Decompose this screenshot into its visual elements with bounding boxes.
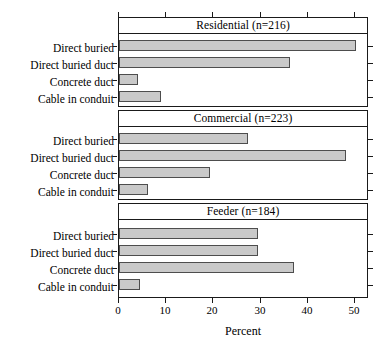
xticklabel-10: 10 [150, 305, 180, 316]
x-tick-bottom [354, 298, 355, 303]
y-tick [113, 97, 117, 98]
x-axis-title: Percent [118, 325, 368, 337]
right-tick [368, 234, 373, 235]
x-tick-bottom [260, 298, 261, 303]
panel-plot-feeder [118, 220, 368, 298]
right-tick [368, 97, 373, 98]
right-tick [368, 173, 373, 174]
x-tick-top [118, 12, 119, 17]
bar-feeder-direct-buried-duct [119, 245, 258, 256]
xticklabel-50: 50 [339, 305, 369, 316]
right-tick [368, 285, 373, 286]
panel-plot-residential [118, 34, 368, 107]
right-tick [368, 251, 373, 252]
bar-feeder-direct-buried [119, 228, 258, 239]
y-tick [113, 234, 117, 235]
x-tick-bottom [212, 298, 213, 303]
x-tick-bottom [165, 298, 166, 303]
panel-strip-label-residential: Residential (n=216) [196, 20, 290, 32]
x-tick-top [165, 12, 166, 17]
x-tick-top [260, 12, 261, 17]
bar-residential-cable-in-conduit [119, 91, 161, 102]
right-tick [368, 139, 373, 140]
ylabel-feeder-concrete-duct: Concrete duct [6, 265, 114, 277]
xticklabel-20: 20 [197, 305, 227, 316]
y-tick [113, 173, 117, 174]
x-tick-top [212, 12, 213, 17]
bar-residential-direct-buried-duct [119, 57, 290, 68]
ylabel-commercial-direct-buried: Direct buried [6, 136, 114, 148]
y-tick [113, 268, 117, 269]
right-tick [368, 268, 373, 269]
y-tick [113, 139, 117, 140]
y-tick [113, 63, 117, 64]
panel-strip-commercial: Commercial (n=223) [118, 110, 368, 127]
panel-strip-label-feeder: Feeder (n=184) [207, 206, 280, 218]
xticklabel-30: 30 [245, 305, 275, 316]
panel-strip-feeder: Feeder (n=184) [118, 203, 368, 220]
y-tick [113, 285, 117, 286]
bar-commercial-concrete-duct [119, 167, 210, 178]
x-tick-top [354, 12, 355, 17]
ylabel-feeder-direct-buried-duct: Direct buried duct [6, 248, 114, 260]
panel-plot-commercial [118, 127, 368, 200]
xticklabel-0: 0 [103, 305, 133, 316]
right-tick [368, 80, 373, 81]
bar-residential-concrete-duct [119, 74, 138, 85]
y-tick [113, 190, 117, 191]
bar-feeder-cable-in-conduit [119, 279, 140, 290]
ylabel-residential-concrete-duct: Concrete duct [6, 77, 114, 89]
ylabel-commercial-direct-buried-duct: Direct buried duct [6, 153, 114, 165]
ylabel-feeder-cable-in-conduit: Cable in conduit [6, 282, 114, 294]
panel-strip-label-commercial: Commercial (n=223) [194, 113, 293, 125]
right-tick [368, 46, 373, 47]
ylabel-commercial-cable-in-conduit: Cable in conduit [6, 187, 114, 199]
right-tick [368, 190, 373, 191]
x-tick-bottom [118, 298, 119, 303]
bar-feeder-concrete-duct [119, 262, 294, 273]
bar-chart-figure: Residential (n=216) Commercial (n=223) F… [0, 0, 387, 345]
ylabel-feeder-direct-buried: Direct buried [6, 231, 114, 243]
xticklabel-40: 40 [292, 305, 322, 316]
ylabel-residential-cable-in-conduit: Cable in conduit [6, 94, 114, 106]
ylabel-residential-direct-buried-duct: Direct buried duct [6, 60, 114, 72]
bar-commercial-cable-in-conduit [119, 184, 148, 195]
bar-residential-direct-buried [119, 40, 356, 51]
right-tick [368, 156, 373, 157]
bar-commercial-direct-buried [119, 133, 248, 144]
y-tick [113, 251, 117, 252]
bar-commercial-direct-buried-duct [119, 150, 346, 161]
y-tick [113, 80, 117, 81]
y-tick [113, 46, 117, 47]
x-tick-top [307, 12, 308, 17]
panel-strip-residential: Residential (n=216) [118, 17, 368, 34]
ylabel-commercial-concrete-duct: Concrete duct [6, 170, 114, 182]
y-tick [113, 156, 117, 157]
ylabel-residential-direct-buried: Direct buried [6, 43, 114, 55]
right-tick [368, 63, 373, 64]
x-tick-bottom [307, 298, 308, 303]
